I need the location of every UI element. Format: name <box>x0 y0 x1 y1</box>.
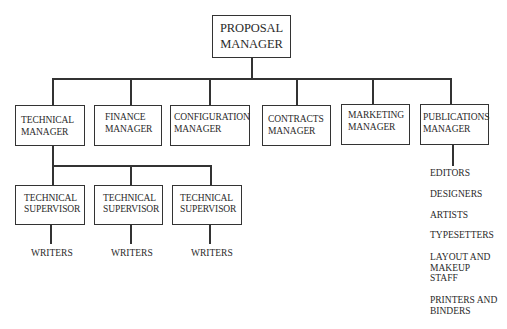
supervisor-1-label-2: SUPERVISOR <box>24 203 81 216</box>
staff-designers: DESIGNERS <box>430 189 482 200</box>
connector-marketing <box>372 78 374 105</box>
connector-manager-bus <box>52 78 452 80</box>
marketing-manager-label-2: MANAGER <box>348 121 406 134</box>
staff-layout-line-3: STAFF <box>430 273 458 284</box>
finance-manager-box: FINANCE MANAGER <box>94 105 162 146</box>
connector-supervisor-2 <box>130 165 132 185</box>
technical-supervisor-box-1: TECHNICAL SUPERVISOR <box>15 185 85 225</box>
staff-printers-line-2: BINDERS <box>430 306 471 317</box>
connector-technical-down <box>52 145 54 166</box>
connector-supervisor-1 <box>52 165 54 185</box>
technical-supervisor-box-3: TECHNICAL SUPERVISOR <box>172 185 242 225</box>
technical-manager-label-2: MANAGER <box>21 126 81 139</box>
finance-manager-label-2: MANAGER <box>105 123 158 136</box>
technical-supervisor-box-2: TECHNICAL SUPERVISOR <box>94 185 163 225</box>
writers-label-1: WRITERS <box>31 248 73 259</box>
writers-label-2: WRITERS <box>111 248 153 259</box>
connector-root-down <box>251 57 253 79</box>
proposal-manager-label-2: MANAGER <box>213 36 290 53</box>
publications-manager-label-2: MANAGER <box>423 123 485 136</box>
connector-writers-2 <box>130 224 132 244</box>
connector-technical <box>52 78 54 105</box>
staff-layout-line-1: LAYOUT AND <box>430 252 490 263</box>
connector-publications <box>450 78 452 105</box>
connector-supervisor-bus <box>52 165 211 167</box>
staff-artists: ARTISTS <box>430 210 468 221</box>
technical-manager-box: TECHNICAL MANAGER <box>15 105 85 146</box>
connector-supervisor-3 <box>210 165 212 185</box>
contracts-manager-label-2: MANAGER <box>268 125 327 138</box>
staff-editors: EDITORS <box>430 168 470 179</box>
publications-manager-box: PUBLICATIONS MANAGER <box>420 104 489 145</box>
connector-writers-3 <box>209 224 211 244</box>
connector-configuration <box>209 78 211 105</box>
staff-printers-line-1: PRINTERS AND <box>430 295 497 306</box>
staff-typesetters: TYPESETTERS <box>430 230 494 241</box>
connector-contracts <box>296 78 298 105</box>
supervisor-3-label-2: SUPERVISOR <box>180 203 238 216</box>
proposal-manager-label-1: PROPOSAL <box>213 20 290 37</box>
contracts-manager-box: CONTRACTS MANAGER <box>262 105 331 146</box>
writers-label-3: WRITERS <box>191 248 233 259</box>
marketing-manager-box: MARKETING MANAGER <box>341 104 410 145</box>
configuration-manager-box: CONFIGURATION MANAGER <box>170 105 250 146</box>
supervisor-2-label-2: SUPERVISOR <box>103 203 159 216</box>
connector-publications-down <box>452 144 454 166</box>
configuration-manager-label-2: MANAGER <box>174 123 246 136</box>
connector-finance <box>130 78 132 105</box>
connector-writers-1 <box>50 224 52 244</box>
proposal-manager-box: PROPOSAL MANAGER <box>212 15 291 58</box>
